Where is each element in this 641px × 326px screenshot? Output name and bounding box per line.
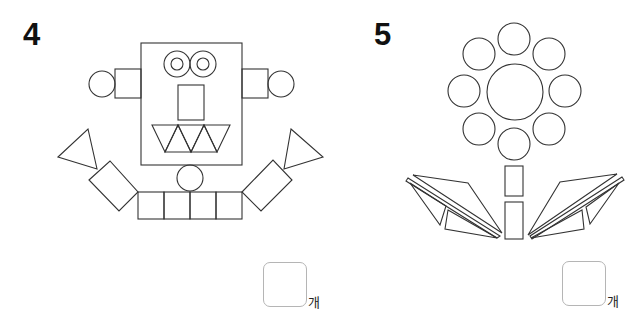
robot-hand-triangle: [58, 129, 97, 169]
robot-ear-rectangle: [242, 69, 268, 98]
flower-petal-circle: [498, 128, 530, 160]
flower-petal-circle: [549, 75, 581, 107]
flower-petal-circle: [498, 23, 530, 55]
robot-ear-rectangle: [115, 69, 141, 98]
robot-body-square: [164, 192, 190, 219]
robot-figure: [58, 43, 323, 219]
robot-neck-circle: [177, 165, 203, 191]
flower-petal-circle: [463, 113, 495, 145]
flower-petal-circle: [448, 75, 480, 107]
shape-figures: [0, 0, 641, 326]
flower-petal-circle: [533, 38, 565, 70]
robot-tooth-triangle: [204, 125, 230, 152]
flower-leaf-polygon: [413, 175, 502, 233]
robot-eye-inner-circle: [171, 58, 183, 70]
robot-eye-inner-circle: [197, 58, 209, 70]
robot-tooth-triangle: [178, 125, 204, 152]
robot-eye-outer-circle: [190, 51, 216, 77]
flower-leaf-polygon: [410, 183, 446, 225]
flower-petal-circle: [533, 113, 565, 145]
answer-box-5[interactable]: [562, 261, 606, 306]
robot-hand-triangle: [284, 129, 323, 169]
robot-ear-circle: [89, 71, 115, 97]
robot-body-square: [190, 192, 216, 219]
robot-tooth-triangle: [191, 125, 217, 152]
flower-petal-circle: [463, 38, 495, 70]
unit-label-4: 개: [308, 292, 320, 311]
robot-body-square: [216, 192, 242, 219]
flower-stem-rectangle: [505, 202, 523, 239]
flower-leaf-polygon: [406, 178, 500, 238]
robot-nose-rectangle: [178, 85, 204, 120]
flower-figure: [406, 23, 624, 239]
robot-head-rectangle: [141, 43, 242, 165]
robot-tooth-triangle: [165, 125, 191, 152]
answer-box-4[interactable]: [263, 262, 307, 307]
robot-eye-outer-circle: [164, 51, 190, 77]
flower-stem-rectangle: [505, 166, 523, 196]
robot-body-square: [138, 192, 164, 219]
robot-ear-circle: [268, 71, 294, 97]
robot-tooth-triangle: [152, 125, 178, 152]
unit-label-5: 개: [607, 291, 619, 310]
flower-center-circle: [487, 64, 543, 120]
